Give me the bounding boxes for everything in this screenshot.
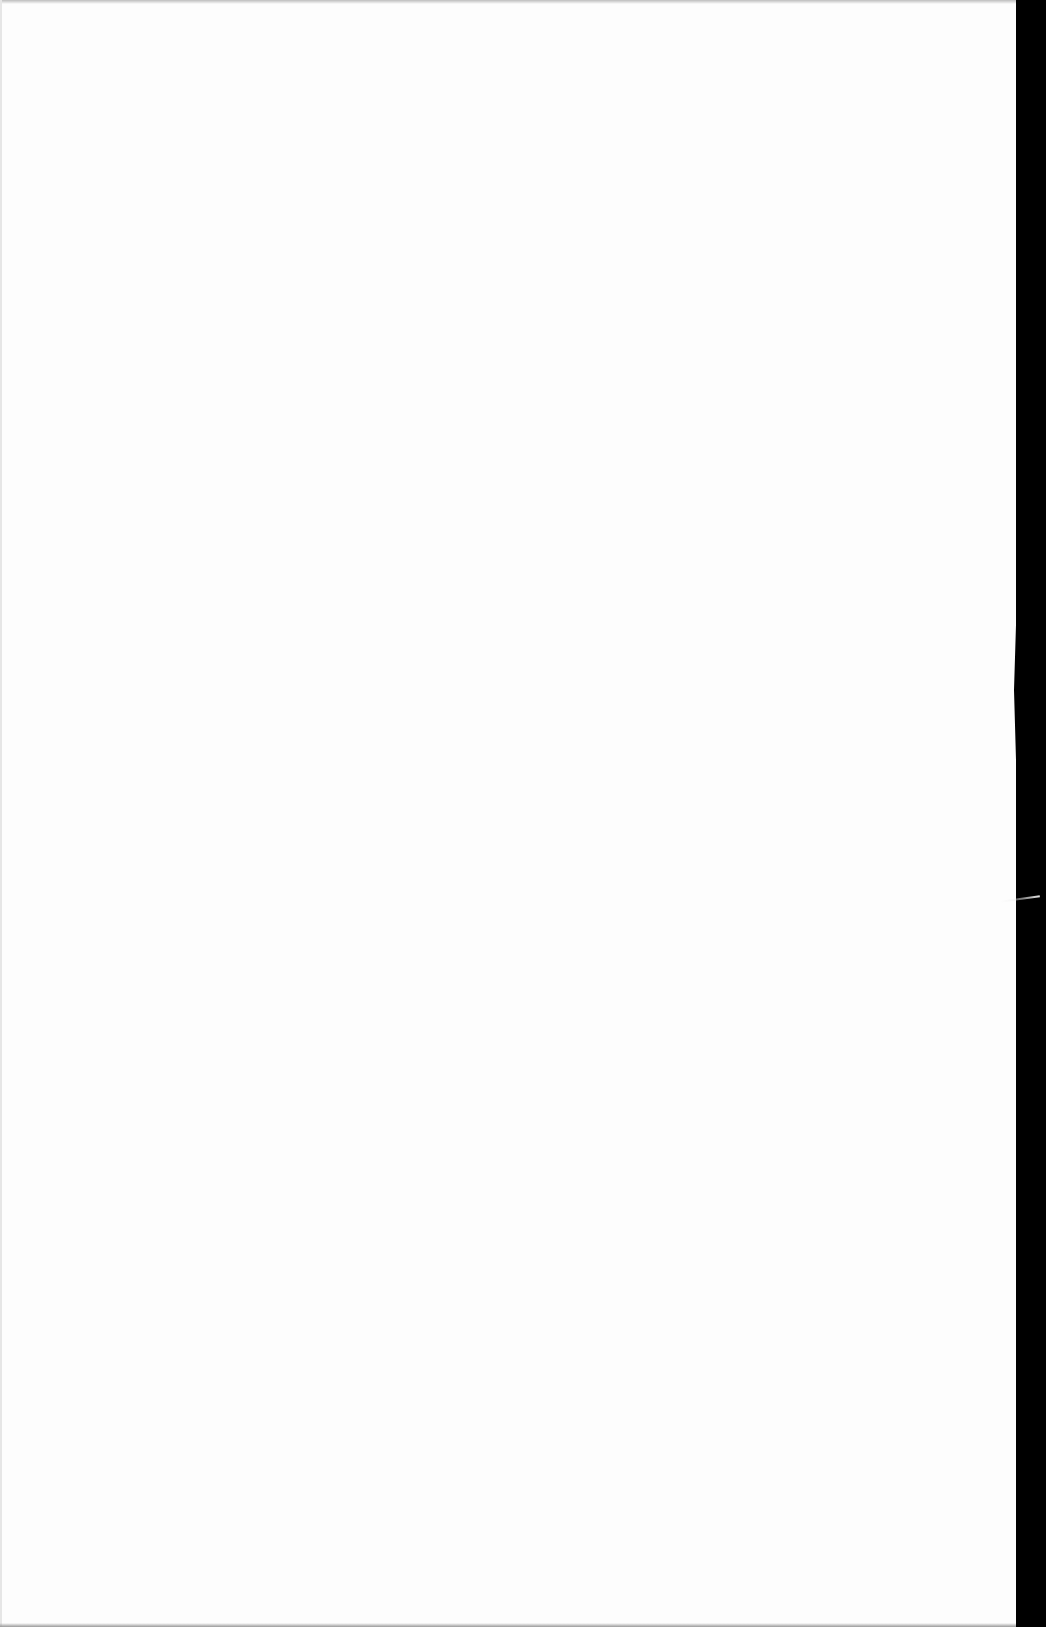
page-left-edge (0, 0, 2, 1627)
scanner-background-strip (1016, 0, 1046, 1627)
blank-page (0, 0, 1020, 1627)
page-bottom-edge (0, 1623, 1020, 1627)
scanned-document (0, 0, 1046, 1627)
page-top-edge (0, 0, 1016, 4)
